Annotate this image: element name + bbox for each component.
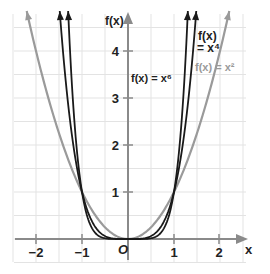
power-functions-chart: −2 −1 1 2 1 2 3 4 O x f(x) f(x) = x⁶ f(x…	[0, 0, 270, 274]
x-tick-label: −1	[75, 245, 90, 260]
x-tick-label: 2	[215, 245, 222, 260]
x-tick-label: −2	[29, 245, 44, 260]
label-x4-line2: = x⁴	[197, 41, 220, 55]
label-x6: f(x) = x⁶	[131, 72, 172, 84]
arrowhead-icon	[184, 11, 191, 20]
y-tick-label: 1	[112, 185, 119, 200]
y-tick-label: 2	[112, 138, 119, 153]
x-axis-label: x	[245, 242, 253, 257]
y-tick-label: 3	[112, 91, 119, 106]
y-axis-arrow-icon	[123, 12, 133, 24]
y-tick-label: 4	[112, 44, 120, 59]
x-tick-label: 1	[170, 245, 177, 260]
origin-label: O	[118, 242, 128, 257]
arrowhead-icon	[65, 11, 72, 20]
label-x2: f(x) = x²	[195, 61, 235, 73]
y-axis-label: f(x)	[105, 14, 124, 28]
